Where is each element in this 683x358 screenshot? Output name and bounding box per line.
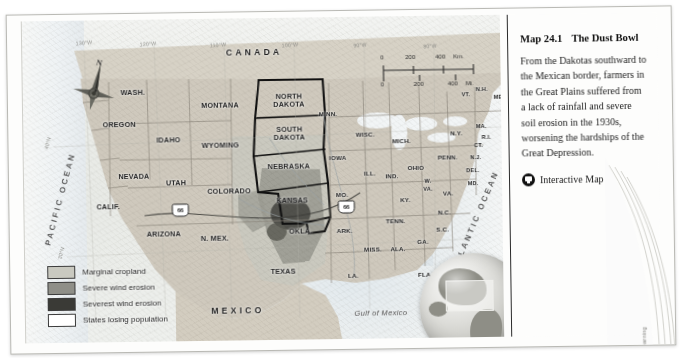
state-label-texas: TEXAS [271, 266, 296, 275]
state-label-r-i: R.I. [482, 134, 491, 140]
state-label-arizona: ARIZONA [147, 229, 181, 238]
graticule-label-90W: 90°W [353, 41, 367, 48]
legend-label: States losing population [83, 314, 168, 324]
scale-km-tick-0: 0 [380, 54, 383, 60]
state-label-n-mex: N. MEX. [201, 233, 229, 242]
state-label-kansas: KANSAS [276, 195, 308, 204]
state-label-me: ME. [494, 94, 504, 100]
state-label-ct: CT. [474, 142, 483, 148]
state-label-calif: CALIF. [97, 202, 121, 211]
state-label-w-va: W.VA. [423, 178, 433, 193]
scale-mi-tick-1: 200 [414, 81, 424, 87]
compass-rose: N [70, 60, 117, 111]
scale-mi-unit: Mi. [466, 80, 474, 86]
interactive-map-link[interactable]: Interactive Map [522, 172, 649, 187]
state-label-ky: KY. [400, 196, 410, 203]
legend-label: Severe wind erosion [82, 282, 155, 292]
state-label-ma: MA. [476, 123, 487, 129]
country-label-canada: CANADA [226, 47, 283, 58]
country-label-mexico: MEXICO [211, 305, 264, 316]
state-label-s-c: S.C. [436, 225, 449, 232]
scale-mi-tick-0: 0 [381, 81, 384, 87]
state-label-mich: MICH. [392, 137, 411, 144]
state-label-penn: PENN. [438, 153, 458, 160]
state-label-va: VA. [443, 189, 454, 196]
state-label-md: MD. [468, 180, 479, 186]
figure-caption-panel: Map 24.1The Dust Bowl From the Dakotas s… [507, 13, 661, 337]
state-label-south-dakota: SOUTHDAKOTA [274, 126, 306, 142]
legend-item: States losing population [48, 310, 218, 328]
scale-mi-tick-2: 400 [448, 80, 458, 86]
state-label-n-c: N.C. [438, 208, 451, 215]
state-label-ohio: OHIO [407, 163, 424, 170]
state-label-vt: VT. [462, 91, 471, 97]
monitor-icon [522, 173, 535, 186]
state-label-ind: IND. [385, 172, 398, 179]
map-legend: Marginal croplandSevere wind erosionSeve… [47, 262, 218, 328]
state-label-wyoming: WYOMING [202, 140, 239, 150]
state-label-wash: WASH. [120, 87, 145, 96]
state-label-montana: MONTANA [201, 100, 239, 110]
legend-swatch [47, 281, 75, 294]
state-label-del: DEL. [466, 167, 479, 173]
state-label-minn: MINN. [319, 110, 338, 117]
state-label-utah: UTAH [166, 178, 186, 187]
water-label-gulf-of-mexico: Gulf of Mexico [354, 308, 407, 318]
scale-km-tick-1: 200 [405, 54, 415, 60]
state-label-miss: MISS. [364, 245, 382, 252]
legend-label: Severest wind erosion [83, 298, 162, 308]
dust-bowl-map[interactable]: N [21, 15, 504, 344]
state-label-nebraska: NEBRASKA [268, 161, 310, 171]
state-label-la: LA. [348, 271, 359, 278]
state-label-n-h: N.H. [476, 86, 488, 92]
state-label-nevada: NEVADA [118, 171, 149, 180]
graticule-label-80W: 80°W [423, 42, 437, 49]
state-label-wisc: WISC. [356, 130, 375, 137]
figure-title: Map 24.1The Dust Bowl [520, 31, 647, 47]
state-label-idaho: IDAHO [156, 135, 180, 144]
state-label-mo: MO. [336, 190, 348, 197]
textbook-page-sheet: N [6, 5, 677, 354]
legend-swatch [48, 313, 76, 326]
state-label-oregon: OREGON [103, 119, 136, 128]
state-label-iowa: IOWA [329, 153, 346, 160]
state-label-north-dakota: NORTHDAKOTA [273, 93, 305, 109]
figure-title-text: The Dust Bowl [571, 32, 638, 44]
state-label-ill: ILL. [364, 169, 376, 176]
scale-bar: 0 200 400 Km. 0 200 400 Mi. [377, 55, 489, 91]
scale-km-tick-2: 400 [435, 54, 445, 60]
state-label-ala: ALA. [390, 245, 405, 252]
legend-label: Marginal cropland [82, 266, 146, 276]
map-page: N [0, 0, 683, 358]
state-label-n-y: N.Y. [450, 129, 462, 136]
state-label-okla: OKLA. [289, 226, 312, 235]
legend-swatch [48, 297, 76, 310]
interactive-map-label: Interactive Map [540, 173, 604, 185]
figure-caption-text: From the Dakotas southward to the Mexica… [520, 52, 648, 162]
state-label-ga: GA. [417, 237, 429, 244]
route-66-shield: 66 [338, 200, 355, 213]
legend-swatch [47, 265, 75, 278]
route-66-shield: 66 [172, 204, 189, 217]
state-label-ark: ARK. [337, 226, 353, 233]
state-label-n-j: N.J. [470, 154, 481, 160]
state-label-tenn: TENN. [386, 217, 406, 224]
scale-km-unit: Km. [453, 53, 464, 59]
figure-number: Map 24.1 [520, 33, 563, 45]
state-label-colorado: COLORADO [207, 186, 251, 196]
